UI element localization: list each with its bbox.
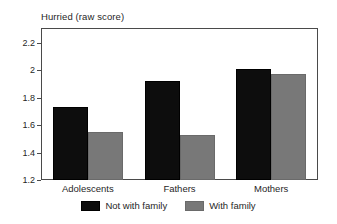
legend-label: With family (209, 200, 255, 211)
y-axis-tick-mark (37, 98, 41, 99)
y-axis-tick-mark (37, 153, 41, 154)
x-axis-tick-label: Adolescents (62, 183, 114, 194)
y-axis-tick-label: 1.8 (22, 93, 35, 103)
y-axis-tick-mark (37, 180, 41, 181)
y-axis-tick-label: 1.4 (22, 148, 35, 158)
y-axis: 1.21.41.61.822.2 (0, 0, 35, 224)
y-axis-tick-mark (37, 125, 41, 126)
chart-title: Hurried (raw score) (41, 11, 124, 22)
legend-item-0: Not with family (81, 200, 167, 211)
bar-mothers-series-1 (271, 74, 306, 180)
x-axis-tick-label: Fathers (163, 183, 195, 194)
legend-swatch-icon (81, 201, 100, 211)
y-axis-tick-mark (37, 43, 41, 44)
bar-adolescents-series-0 (53, 107, 88, 180)
y-axis-tick-mark (37, 70, 41, 71)
bar-mothers-series-0 (236, 69, 271, 180)
legend-item-1: With family (185, 200, 255, 211)
legend-swatch-icon (185, 201, 204, 211)
bar-fathers-series-0 (145, 81, 180, 180)
legend-label: Not with family (105, 200, 167, 211)
x-axis-tick-label: Mothers (254, 183, 288, 194)
bar-fathers-series-1 (180, 135, 215, 180)
chart-legend: Not with familyWith family (0, 200, 337, 211)
y-axis-tick-label: 2 (30, 65, 35, 75)
plot-area (42, 29, 317, 180)
y-axis-tick-label: 1.6 (22, 120, 35, 130)
y-axis-tick-label: 2.2 (22, 38, 35, 48)
bar-adolescents-series-1 (88, 132, 123, 180)
y-axis-tick-label: 1.2 (22, 175, 35, 185)
bar-chart-figure: Hurried (raw score) 1.21.41.61.822.2 Not… (0, 0, 337, 224)
